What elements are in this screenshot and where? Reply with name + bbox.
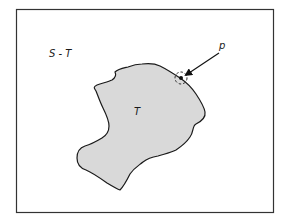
diagram-canvas: S - T T p bbox=[0, 0, 286, 224]
point-p-marker bbox=[179, 76, 183, 80]
label-t: T bbox=[134, 106, 141, 117]
label-p: p bbox=[218, 40, 225, 51]
label-s-minus-t: S - T bbox=[49, 48, 72, 59]
set-diagram: S - T T p bbox=[0, 0, 286, 224]
